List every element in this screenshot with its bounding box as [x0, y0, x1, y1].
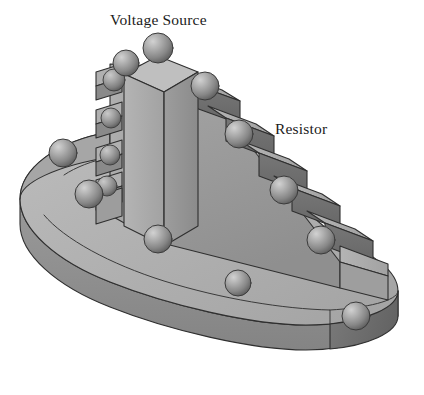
- sphere-left-step-2: [101, 108, 121, 128]
- sphere-right-step-4: [307, 226, 335, 254]
- sphere-base-front: [225, 270, 251, 296]
- sphere-right-step-2: [225, 120, 253, 148]
- sphere-right-step-5: [342, 302, 370, 330]
- voltage-source-label: Voltage Source: [110, 11, 207, 29]
- sphere-right-step-1: [191, 72, 219, 100]
- sphere-base-left-rear: [49, 139, 77, 167]
- diagram-canvas: Voltage Source Resistor: [0, 0, 424, 395]
- sphere-base-left-front: [75, 180, 103, 208]
- tower-left-face: [124, 74, 164, 246]
- tower-right-face: [164, 72, 198, 246]
- sphere-right-step-3: [270, 176, 298, 204]
- isometric-assembly-drawing: [0, 0, 424, 395]
- sphere-tower-rear: [113, 50, 139, 76]
- sphere-base-mid: [144, 225, 172, 253]
- voltage-source-tower: [124, 56, 198, 246]
- sphere-tower-apex: [143, 33, 173, 63]
- resistor-label: Resistor: [275, 120, 327, 138]
- sphere-left-step-3: [100, 145, 120, 165]
